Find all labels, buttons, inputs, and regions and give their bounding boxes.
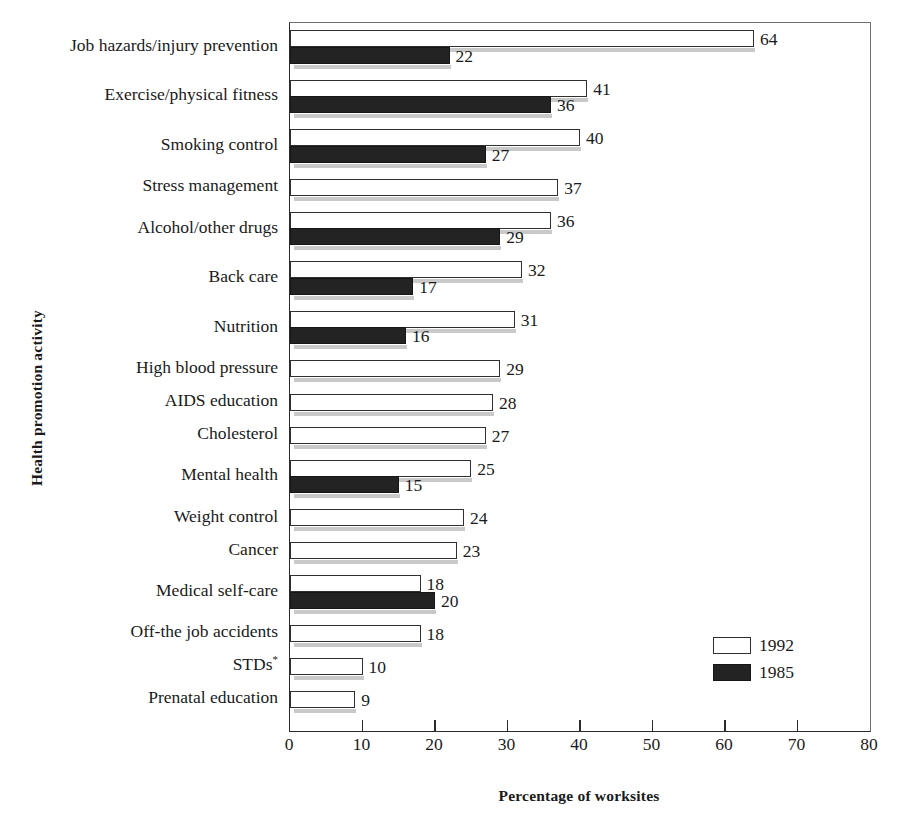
category-label-text: Mental health: [181, 464, 278, 484]
bar-value-label: 36: [557, 96, 575, 114]
bar-shadow: [294, 676, 364, 680]
category-label-text: Cholesterol: [197, 423, 278, 443]
bar-value-label: 40: [586, 129, 604, 147]
bar-shadow: [294, 296, 414, 300]
bar-value-label: 16: [412, 327, 430, 345]
bar-shadow: [294, 65, 451, 69]
bar-1992: [290, 261, 522, 278]
x-axis-tick-label: 40: [570, 736, 588, 754]
category-label-text: Exercise/physical fitness: [105, 84, 279, 104]
bar-value-label: 24: [470, 509, 488, 527]
bar-1992: [290, 30, 754, 47]
bar-value-label: 31: [521, 311, 539, 329]
bar-1992: [290, 575, 421, 592]
category-label-text: Job hazards/injury prevention: [70, 35, 278, 55]
category-label: STDs*: [0, 656, 284, 674]
bar-shadow: [294, 560, 458, 564]
category-label: Off-the job accidents: [0, 623, 284, 641]
category-label-text: AIDS education: [165, 390, 278, 410]
category-label-text: High blood pressure: [136, 357, 278, 377]
category-label: Prenatal education: [0, 689, 284, 707]
bar-1992: [290, 542, 457, 559]
bar-1992: [290, 509, 464, 526]
bar-series-container: 6422413640273736293217311629282725152423…: [290, 23, 870, 731]
x-axis-tick: [579, 720, 580, 731]
category-label: Weight control: [0, 508, 284, 526]
category-label: Back care: [0, 268, 284, 286]
x-axis-tick-label: 20: [425, 736, 443, 754]
x-axis-tick-label: 60: [715, 736, 733, 754]
bar-shadow: [294, 494, 400, 498]
bar-1992: [290, 427, 486, 444]
x-axis-tick-labels: 01020304050607080: [289, 736, 869, 764]
category-label: Mental health: [0, 466, 284, 484]
x-axis-tick: [434, 720, 435, 731]
bar-shadow: [294, 527, 465, 531]
x-axis-tick: [652, 720, 653, 731]
bar-shadow: [294, 197, 559, 201]
legend-label: 1985: [759, 664, 794, 682]
category-label: AIDS education: [0, 392, 284, 410]
category-label: Medical self-care: [0, 582, 284, 600]
x-axis-tick-label: 30: [498, 736, 516, 754]
x-axis-tick-label: 10: [353, 736, 371, 754]
bar-1992: [290, 394, 493, 411]
bar-shadow: [294, 345, 407, 349]
bar-chart: Health promotion activity Job hazards/in…: [0, 0, 900, 826]
x-axis-tick-label: 70: [788, 736, 806, 754]
bar-1992: [290, 360, 500, 377]
bar-shadow: [294, 164, 487, 168]
bar-value-label: 41: [593, 80, 611, 98]
bar-value-label: 23: [463, 542, 481, 560]
footnote-marker: *: [273, 654, 279, 666]
bar-value-label: 64: [760, 30, 778, 48]
bar-1992: [290, 625, 421, 642]
legend-item: 1985: [713, 659, 843, 686]
legend-swatch: [713, 664, 751, 681]
category-label: Alcohol/other drugs: [0, 219, 284, 237]
bar-value-label: 36: [557, 212, 575, 230]
category-label-text: Back care: [209, 266, 278, 286]
bar-1992: [290, 212, 551, 229]
x-axis-tick: [362, 720, 363, 731]
category-label-text: Weight control: [174, 506, 278, 526]
category-label-text: Cancer: [228, 539, 278, 559]
category-label-text: Off-the job accidents: [131, 621, 278, 641]
bar-value-label: 27: [492, 146, 510, 164]
bar-value-label: 27: [492, 427, 510, 445]
category-label-text: Medical self-care: [156, 580, 278, 600]
bar-value-label: 10: [369, 658, 387, 676]
category-label: Exercise/physical fitness: [0, 86, 284, 104]
bar-1985: [290, 96, 551, 113]
legend-label: 1992: [759, 637, 794, 655]
bar-shadow: [294, 246, 501, 250]
bar-shadow: [294, 445, 487, 449]
category-label: High blood pressure: [0, 359, 284, 377]
bar-shadow: [294, 709, 356, 713]
category-label: Smoking control: [0, 136, 284, 154]
x-axis-tick-label: 50: [643, 736, 661, 754]
bar-value-label: 29: [506, 228, 524, 246]
category-label: Cancer: [0, 541, 284, 559]
bar-value-label: 15: [405, 476, 423, 494]
bar-1985: [290, 278, 413, 295]
bar-1992: [290, 179, 558, 196]
bar-1992: [290, 658, 363, 675]
bar-value-label: 29: [506, 360, 524, 378]
x-axis-tick: [797, 720, 798, 731]
bar-1985: [290, 47, 450, 64]
category-label-text: Smoking control: [161, 134, 278, 154]
category-label-text: STDs: [233, 654, 273, 674]
plot-area: 6422413640273736293217311629282725152423…: [289, 22, 871, 732]
category-label-text: Prenatal education: [148, 687, 278, 707]
x-axis-tick: [507, 720, 508, 731]
category-label-text: Stress management: [142, 175, 278, 195]
bar-1985: [290, 146, 486, 163]
bar-1985: [290, 327, 406, 344]
x-axis-tick-label: 0: [285, 736, 294, 754]
bar-shadow: [294, 643, 422, 647]
bar-shadow: [294, 412, 494, 416]
x-axis-tick: [724, 720, 725, 731]
legend-swatch: [713, 637, 751, 654]
bar-value-label: 9: [361, 691, 370, 709]
